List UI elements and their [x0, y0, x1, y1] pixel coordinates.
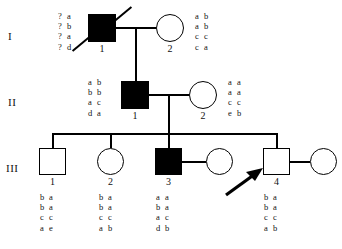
allele: c [99, 212, 108, 222]
allele: b [97, 87, 106, 97]
individual-id-i-1: 1 [88, 43, 116, 54]
allele: b [156, 202, 165, 212]
allele: b [40, 192, 49, 202]
individual-id-ii-2: 2 [189, 110, 217, 121]
individual-symbol-iii-3[interactable] [155, 148, 182, 175]
allele: c [165, 212, 174, 222]
generation-label-i: I [8, 30, 12, 42]
allele: c [264, 212, 273, 222]
individual-id-iii-3: 3 [155, 176, 182, 187]
haplotype-i-1: ?a ?b ?a ?d [58, 11, 76, 52]
haplotype-iii-3: aa ba ac db [156, 192, 174, 233]
allele: a [264, 223, 273, 233]
descent-line-ii-to-iii [168, 94, 170, 133]
sibling-drop-iii-1 [52, 133, 54, 148]
individual-symbol-ii-1[interactable] [121, 81, 149, 109]
allele: ? [58, 42, 67, 52]
allele: a [228, 87, 237, 97]
sibling-drop-iii-3 [168, 133, 170, 148]
allele: a [108, 202, 117, 212]
individual-id-i-2: 2 [156, 43, 184, 54]
mating-line-iii-3 [182, 161, 206, 163]
allele: c [237, 97, 246, 107]
allele: c [97, 97, 106, 107]
allele: b [108, 223, 117, 233]
allele: e [49, 223, 58, 233]
allele: e [228, 108, 237, 118]
individual-symbol-iii-4-spouse[interactable] [310, 148, 337, 175]
allele: a [88, 97, 97, 107]
allele: ? [58, 21, 67, 31]
allele: c [40, 212, 49, 222]
individual-symbol-iii-3-spouse[interactable] [206, 148, 233, 175]
allele: a [165, 192, 174, 202]
allele: d [156, 223, 165, 233]
allele: b [273, 223, 282, 233]
allele: a [49, 202, 58, 212]
haplotype-iii-4: ba ba cc ab [264, 192, 282, 233]
allele: a [40, 223, 49, 233]
allele: a [88, 77, 97, 87]
allele: b [67, 21, 76, 31]
allele: a [237, 87, 246, 97]
individual-symbol-iii-4[interactable] [263, 148, 290, 175]
sibship-line-iii [52, 133, 278, 135]
allele: b [264, 192, 273, 202]
allele: b [237, 108, 246, 118]
haplotype-ii-2: aa aa cc eb [228, 77, 246, 118]
allele: b [204, 21, 213, 31]
allele: a [156, 212, 165, 222]
individual-symbol-ii-2[interactable] [189, 81, 217, 109]
individual-symbol-iii-2[interactable] [97, 148, 124, 175]
allele: a [204, 42, 213, 52]
allele: c [273, 212, 282, 222]
allele: a [108, 192, 117, 202]
allele: a [273, 192, 282, 202]
allele: a [49, 192, 58, 202]
allele: a [67, 11, 76, 21]
individual-id-iii-4: 4 [263, 176, 290, 187]
allele: a [273, 202, 282, 212]
haplotype-ii-1: ab bb ac da [88, 77, 106, 118]
allele: c [204, 31, 213, 41]
allele: a [237, 77, 246, 87]
haplotype-i-2: ab ab cc ca [195, 11, 213, 52]
allele: b [165, 223, 174, 233]
individual-id-iii-2: 2 [97, 176, 124, 187]
haplotype-iii-2: ba ba cc ab [99, 192, 117, 233]
allele: d [88, 108, 97, 118]
allele: c [195, 42, 204, 52]
individual-symbol-iii-1[interactable] [39, 148, 66, 175]
allele: ? [58, 11, 67, 21]
allele: a [195, 11, 204, 21]
mating-line-iii-4 [290, 161, 310, 163]
allele: a [99, 223, 108, 233]
allele: b [99, 192, 108, 202]
allele: b [264, 202, 273, 212]
generation-label-ii: II [8, 96, 16, 108]
allele: a [97, 108, 106, 118]
haplotype-iii-1: ba ba cc ae [40, 192, 58, 233]
allele: c [195, 31, 204, 41]
allele: a [156, 192, 165, 202]
individual-id-ii-1: 1 [121, 110, 149, 121]
individual-symbol-i-1[interactable] [88, 14, 116, 42]
allele: b [97, 77, 106, 87]
allele: a [165, 202, 174, 212]
allele: a [195, 21, 204, 31]
individual-symbol-i-2[interactable] [156, 14, 184, 42]
allele: a [228, 77, 237, 87]
sibling-drop-iii-4 [276, 133, 278, 148]
descent-line-i-to-ii [135, 27, 137, 81]
allele: b [40, 202, 49, 212]
allele: c [228, 97, 237, 107]
generation-label-iii: III [6, 162, 19, 174]
allele: b [88, 87, 97, 97]
allele: ? [58, 31, 67, 41]
allele: b [99, 202, 108, 212]
deceased-slash-icon [114, 6, 132, 22]
allele: b [204, 11, 213, 21]
allele: c [108, 212, 117, 222]
allele: c [49, 212, 58, 222]
individual-id-iii-1: 1 [39, 176, 66, 187]
